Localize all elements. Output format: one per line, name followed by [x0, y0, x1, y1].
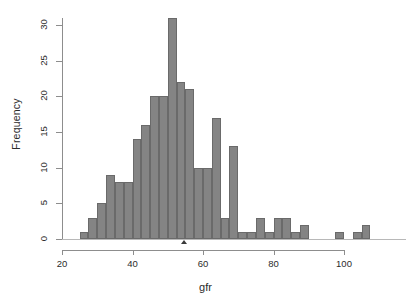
histogram-bar	[229, 146, 238, 239]
y-tick	[56, 203, 62, 204]
x-tick	[344, 250, 345, 255]
histogram-bar	[362, 225, 371, 239]
histogram-bar	[185, 89, 194, 239]
y-axis-label: Frequency	[10, 74, 22, 174]
y-tick-label: 25	[38, 49, 49, 71]
histogram-bar	[194, 168, 203, 239]
histogram-bar	[353, 232, 362, 239]
x-tick-label: 80	[261, 258, 287, 269]
histogram-bar	[97, 203, 106, 239]
y-tick	[56, 168, 62, 169]
histogram-bar	[177, 82, 186, 239]
x-tick-label: 40	[120, 258, 146, 269]
y-tick	[56, 239, 62, 240]
histogram-bar	[238, 232, 247, 239]
axis-marker-triangle-icon	[181, 240, 187, 244]
y-axis-line	[62, 18, 63, 239]
histogram-bar	[203, 168, 212, 239]
histogram-bar	[300, 225, 309, 239]
histogram-bar	[115, 182, 124, 239]
histogram-bar	[150, 96, 159, 239]
histogram-bar	[335, 232, 344, 239]
plot-baseline	[62, 239, 406, 240]
y-tick	[56, 132, 62, 133]
histogram-bar	[274, 218, 283, 239]
y-tick-label: 15	[38, 121, 49, 143]
x-tick	[133, 250, 134, 255]
histogram-bar	[212, 118, 221, 239]
histogram-bar	[106, 175, 115, 239]
histogram-bar	[159, 96, 168, 239]
x-tick	[62, 250, 63, 255]
x-tick	[274, 250, 275, 255]
y-tick	[56, 25, 62, 26]
histogram-bar	[265, 232, 274, 239]
histogram-bar	[247, 232, 256, 239]
histogram-bar	[282, 218, 291, 239]
y-tick	[56, 61, 62, 62]
histogram-bar	[133, 139, 142, 239]
y-tick-label: 30	[38, 14, 49, 36]
histogram-bar	[291, 232, 300, 239]
y-tick-label: 5	[38, 192, 49, 214]
histogram-plot: Frequency 051015202530 20406080100 gfr	[0, 0, 411, 304]
histogram-bar	[88, 218, 97, 239]
histogram-bar	[221, 218, 230, 239]
y-tick	[56, 96, 62, 97]
y-tick-label: 20	[38, 85, 49, 107]
histogram-bar	[168, 18, 177, 239]
x-tick-label: 20	[49, 258, 75, 269]
x-tick-label: 100	[331, 258, 357, 269]
histogram-bar	[80, 232, 89, 239]
histogram-bar	[124, 182, 133, 239]
x-tick	[203, 250, 204, 255]
y-tick-label: 10	[38, 156, 49, 178]
x-tick-label: 60	[190, 258, 216, 269]
histogram-bar	[141, 125, 150, 239]
x-axis-label: gfr	[0, 281, 411, 293]
y-tick-label: 0	[38, 228, 49, 250]
histogram-bar	[256, 218, 265, 239]
